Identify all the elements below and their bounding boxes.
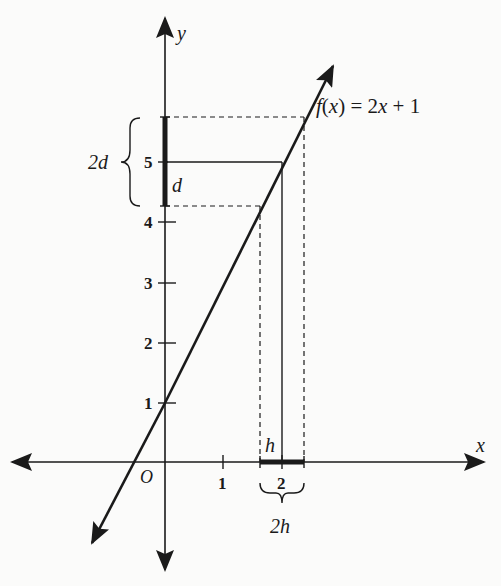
solid-guides	[165, 162, 282, 462]
origin-label: O	[140, 467, 153, 487]
x-axis-label: x	[475, 434, 485, 456]
y-axis-label: y	[175, 22, 186, 45]
y-tick-label-2: 2	[144, 334, 153, 353]
two-h-label: 2h	[270, 515, 290, 537]
two-d-label: 2d	[88, 151, 109, 173]
y-tick-label-5: 5	[144, 153, 153, 172]
h-label: h	[265, 434, 275, 456]
function-label: f(x) = 2x + 1	[316, 94, 420, 118]
function-label-eq: = 2	[345, 94, 378, 118]
y-tick-label-1: 1	[144, 394, 153, 413]
y-tick-label-4: 4	[144, 213, 153, 232]
x-tick-label-2: 2	[277, 474, 286, 493]
function-label-rest: + 1	[387, 94, 420, 118]
d-label: d	[172, 174, 183, 196]
function-label-close: )	[338, 94, 345, 118]
function-graph: y x O 1 2 3 4 5 1 2 d 2d h 2h f(x) = 2x …	[0, 0, 501, 586]
function-label-open: (	[322, 94, 329, 118]
brace-2d-icon	[121, 118, 140, 206]
y-tick-label-3: 3	[144, 274, 153, 293]
x-tick-label-1: 1	[218, 474, 227, 493]
function-line-lower-arrow-icon	[92, 403, 165, 543]
